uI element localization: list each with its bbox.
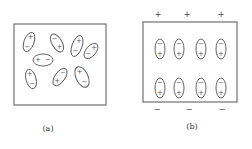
negative-electrode-charge: − <box>186 105 193 114</box>
aligned-dipole: −+ <box>155 39 165 59</box>
dipole: +− <box>24 68 39 90</box>
dipole-polarization-diagram: +−−++−+−+−+−−++− −+−+−+−+−+−+−+−++++−−− … <box>0 0 252 149</box>
dipole: +− <box>21 31 37 53</box>
dipole: −+ <box>48 32 67 54</box>
aligned-dipole: −+ <box>196 39 206 59</box>
aligned-dipole: −+ <box>196 78 206 98</box>
plus-sign: + <box>218 50 224 58</box>
aligned-dipole: −+ <box>174 78 184 98</box>
minus-sign: − <box>157 79 163 87</box>
minus-sign: − <box>218 79 224 87</box>
minus-sign: − <box>176 79 182 87</box>
dipole: +− <box>69 34 86 58</box>
minus-sign: − <box>198 40 204 48</box>
minus-sign: − <box>81 78 87 86</box>
dipole: −+ <box>50 66 70 88</box>
plus-sign: + <box>218 89 224 97</box>
minus-sign: − <box>72 47 78 55</box>
plus-sign: + <box>76 37 82 45</box>
dipole: +− <box>33 54 53 66</box>
caption-a: (a) <box>42 124 53 133</box>
minus-sign: − <box>198 79 204 87</box>
minus-sign: − <box>218 40 224 48</box>
plus-sign: + <box>27 70 33 78</box>
aligned-dipole: −+ <box>216 78 226 98</box>
plus-sign: + <box>91 44 97 52</box>
minus-sign: − <box>24 43 30 51</box>
plus-sign: + <box>176 50 182 58</box>
positive-electrode-charge: + <box>155 10 162 19</box>
plus-sign: + <box>35 56 41 64</box>
minus-sign: − <box>157 40 163 48</box>
plus-sign: + <box>54 77 60 85</box>
positive-electrode-charge: + <box>218 10 225 19</box>
panel-a-random-dipoles: +−−++−+−+−+−−++− <box>14 24 106 105</box>
dipole: +− <box>72 64 92 89</box>
plus-sign: + <box>157 50 163 58</box>
plus-sign: + <box>198 89 204 97</box>
panel-b-aligned-dipoles: −+−+−+−+−+−+−+−++++−−− <box>143 10 237 114</box>
dipole: +− <box>81 40 101 61</box>
aligned-dipole: −+ <box>174 39 184 59</box>
negative-electrode-charge: − <box>154 105 161 114</box>
minus-sign: − <box>60 69 66 77</box>
aligned-dipole: −+ <box>216 39 226 59</box>
caption-b: (b) <box>186 122 197 131</box>
positive-electrode-charge: + <box>184 10 191 19</box>
minus-sign: − <box>176 40 182 48</box>
minus-sign: − <box>45 56 51 64</box>
minus-sign: − <box>52 35 58 43</box>
plus-sign: + <box>157 89 163 97</box>
plus-sign: + <box>57 43 63 51</box>
minus-sign: − <box>85 50 91 58</box>
plus-sign: + <box>176 89 182 97</box>
plus-sign: + <box>198 50 204 58</box>
plus-sign: + <box>77 68 83 76</box>
negative-electrode-charge: − <box>219 105 226 114</box>
minus-sign: − <box>29 80 35 88</box>
plus-sign: + <box>28 33 34 41</box>
aligned-dipole: −+ <box>155 78 165 98</box>
